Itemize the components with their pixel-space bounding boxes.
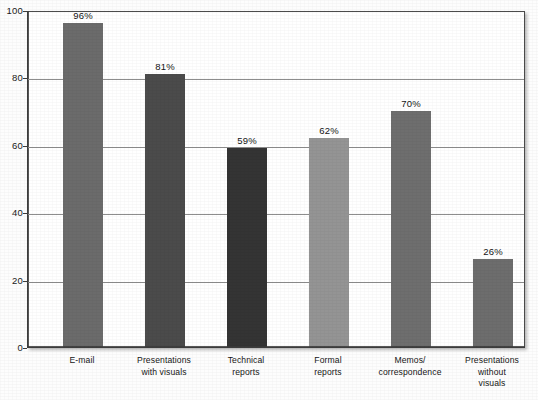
bar-value-label-3: 59% — [237, 135, 257, 146]
bar-2[interactable] — [145, 74, 185, 347]
x-category-label-2: Presentations with visuals — [119, 355, 209, 378]
y-tick-label-20: 20 — [0, 275, 23, 286]
y-tick-label-60: 60 — [0, 140, 23, 151]
x-category-label-4: Formal reports — [283, 355, 373, 378]
bar-1[interactable] — [63, 23, 103, 347]
x-category-label-5: Memos/ correspondence — [365, 355, 455, 378]
bar-value-label-4: 62% — [319, 125, 339, 136]
x-category-label-3: Technical reports — [201, 355, 291, 378]
bar-value-label-1: 96% — [73, 10, 93, 21]
bar-5[interactable] — [391, 111, 431, 347]
y-tick-label-80: 80 — [0, 72, 23, 83]
y-tick-label-40: 40 — [0, 207, 23, 218]
plot-area: 96%81%59%62%70%26% — [27, 11, 525, 348]
bar-value-label-6: 26% — [483, 246, 503, 257]
y-tick-mark-0 — [23, 348, 27, 349]
bar-3[interactable] — [227, 148, 267, 347]
bar-value-label-2: 81% — [155, 61, 175, 72]
bar-6[interactable] — [473, 259, 513, 347]
bar-value-label-5: 70% — [401, 98, 421, 109]
x-category-label-1: E-mail — [37, 355, 127, 367]
y-tick-label-100: 100 — [0, 5, 23, 16]
bar-4[interactable] — [309, 138, 349, 347]
bar-chart-figure: 020406080100 96%81%59%62%70%26% E-mailPr… — [0, 0, 538, 400]
x-category-label-6: Presentations without visuals — [447, 355, 537, 390]
y-tick-label-0: 0 — [0, 342, 23, 353]
